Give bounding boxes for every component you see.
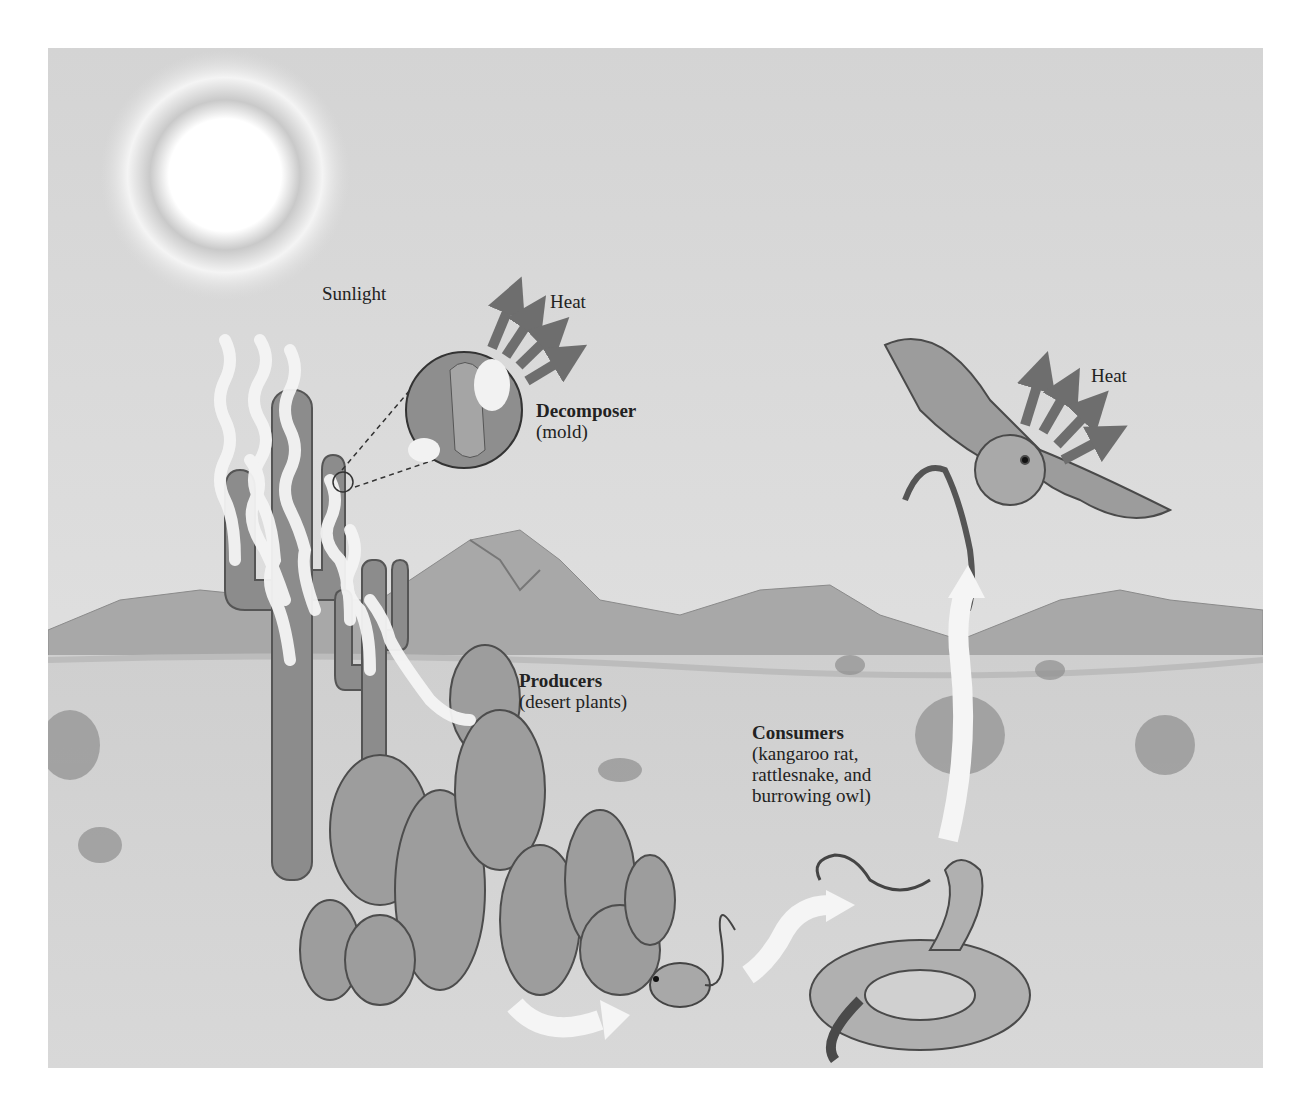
consumers-label: Consumers (kangaroo rat, rattlesnake, an… <box>752 722 871 806</box>
sunlight-label: Sunlight <box>322 283 386 304</box>
heat-label-owl: Heat <box>1091 365 1127 386</box>
consumers-subtitle-line3: burrowing owl) <box>752 785 871 806</box>
ecosystem-illustration <box>0 0 1307 1104</box>
decomposer-subtitle: (mold) <box>536 421 636 442</box>
decomposer-label: Decomposer (mold) <box>536 400 636 442</box>
producers-label: Producers (desert plants) <box>519 670 627 712</box>
heat-label-text: Heat <box>1091 365 1127 386</box>
consumers-subtitle-line1: (kangaroo rat, <box>752 743 871 764</box>
decomposer-mold-icon <box>406 352 522 468</box>
sun-icon <box>100 50 350 300</box>
consumers-title: Consumers <box>752 722 871 743</box>
kangaroo-rat-eye <box>653 976 659 982</box>
producers-subtitle: (desert plants) <box>519 691 627 712</box>
heat-label-text: Heat <box>550 291 586 312</box>
consumers-subtitle-line2: rattlesnake, and <box>752 764 871 785</box>
heat-label-decomposer: Heat <box>550 291 586 312</box>
decomposer-title: Decomposer <box>536 400 636 421</box>
sunlight-label-text: Sunlight <box>322 283 386 304</box>
producers-title: Producers <box>519 670 627 691</box>
diagram-canvas: Sunlight Heat Heat Decomposer (mold) Pro… <box>0 0 1307 1104</box>
